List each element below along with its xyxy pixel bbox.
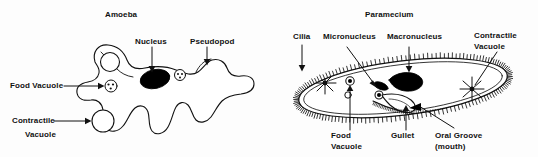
cilium xyxy=(442,109,443,115)
cilium xyxy=(417,113,418,119)
cilium xyxy=(413,114,414,119)
cilium xyxy=(294,99,299,100)
amoeba-food-vacuole xyxy=(105,80,117,92)
cilium xyxy=(459,54,461,59)
cilium xyxy=(375,59,376,65)
cilium xyxy=(436,53,437,58)
cilium xyxy=(312,79,315,84)
cilium xyxy=(379,60,380,65)
paramecium-contractile-vacuole-left xyxy=(314,72,336,94)
cilium xyxy=(362,62,363,68)
cilium xyxy=(423,54,424,59)
cilium xyxy=(406,56,407,61)
cilium xyxy=(419,55,420,60)
cilium xyxy=(325,115,327,120)
paramecium-label-food-vacuole: Food xyxy=(331,131,351,141)
paramecium-label-contractile-vacuole-line2: Vacuole xyxy=(474,42,505,52)
amoeba-diagram-panel: Amoeba Nucleus Pseudopod Food Vacuole Co… xyxy=(0,0,269,157)
cilium xyxy=(427,53,428,59)
paramecium-food-vacuole xyxy=(346,77,354,85)
cilium xyxy=(476,56,478,61)
amoeba-label-nucleus: Nucleus xyxy=(135,37,167,47)
cilium xyxy=(322,115,324,121)
oral-groove-cilium xyxy=(452,107,453,110)
paramecium-label-contractile-vacuole: Contractile xyxy=(474,31,517,41)
cilium xyxy=(421,113,422,118)
cilium xyxy=(371,61,372,66)
amoeba-food-vacuole-secondary xyxy=(175,70,186,81)
cilium xyxy=(478,98,480,103)
cilium xyxy=(328,116,330,121)
cilium xyxy=(479,56,481,61)
cilium xyxy=(487,94,489,99)
paramecium-label-micronucleus: Micronucleus xyxy=(323,32,376,42)
cilium xyxy=(388,57,389,63)
cilium xyxy=(469,101,471,106)
cilium xyxy=(386,117,387,122)
cilium xyxy=(313,113,316,118)
cilium xyxy=(458,105,459,110)
cilium xyxy=(326,73,328,78)
amoeba-label-contractile-vacuole-line2: Vacuole xyxy=(25,130,56,140)
amoeba-label-pseudopod: Pseudopod xyxy=(190,37,234,47)
cilium xyxy=(452,53,453,59)
cilium xyxy=(473,54,475,60)
cilium xyxy=(404,115,405,121)
amoeba-label-contractile-vacuole: Contractile xyxy=(12,116,55,126)
paramecium-title: Paramecium xyxy=(365,10,414,20)
cilium xyxy=(345,117,347,122)
paramecium-diagram-panel: Paramecium Cilia Micronucleus Macronucle… xyxy=(269,0,538,157)
paramecium-label-gullet: Gullet xyxy=(391,131,414,141)
cilium xyxy=(414,54,415,60)
cilium xyxy=(426,112,427,117)
cilium xyxy=(507,75,512,76)
cilium xyxy=(361,118,362,123)
cilium xyxy=(444,54,445,59)
amoeba-label-food-vacuole: Food Vacuole xyxy=(10,81,63,91)
cilium xyxy=(329,71,331,77)
paramecium-leader-cilia xyxy=(299,45,306,72)
cilium xyxy=(320,75,322,81)
cilium xyxy=(466,55,468,60)
amoeba-title: Amoeba xyxy=(105,10,137,20)
cilium xyxy=(384,58,385,63)
cilium xyxy=(465,103,467,109)
cilium xyxy=(456,54,457,59)
cilium xyxy=(400,116,401,121)
paramecium-label-food-vacuole-line2: Vacuole xyxy=(331,142,362,152)
cilium xyxy=(391,116,392,122)
amoeba-vacuole-upper xyxy=(101,53,120,72)
cilium xyxy=(470,54,472,59)
cilium xyxy=(397,56,398,61)
cilium xyxy=(454,106,455,112)
cilium xyxy=(448,53,449,58)
cilium xyxy=(294,101,299,102)
amoeba-leader-contractile-vacuole xyxy=(54,118,92,124)
amoeba-contractile-vacuole xyxy=(92,110,114,132)
cilium xyxy=(347,66,348,71)
cilium xyxy=(393,57,394,62)
cilium xyxy=(446,108,447,113)
cilium xyxy=(335,116,337,121)
cilium xyxy=(507,76,512,77)
cilium xyxy=(365,118,366,124)
cilium xyxy=(342,117,344,123)
paramecium-label-oral-groove: Oral Groove xyxy=(435,131,482,141)
cilium xyxy=(331,116,333,122)
cilium xyxy=(482,56,484,62)
cilium xyxy=(338,117,340,122)
amoeba-label-contractile-line1: Contractile xyxy=(12,116,55,125)
figure-root: Amoeba Nucleus Pseudopod Food Vacuole Co… xyxy=(0,0,538,157)
cilium xyxy=(357,118,358,123)
cilium xyxy=(382,117,383,122)
cilium xyxy=(395,116,396,121)
cilium xyxy=(317,77,319,82)
cilium xyxy=(463,53,465,59)
paramecium-label-macronucleus: Macronucleus xyxy=(387,32,442,42)
cilium xyxy=(475,99,477,105)
cilium xyxy=(339,68,341,74)
cilium xyxy=(440,53,441,59)
cilium xyxy=(350,65,351,71)
cilium xyxy=(369,118,370,123)
cilium xyxy=(410,55,411,60)
